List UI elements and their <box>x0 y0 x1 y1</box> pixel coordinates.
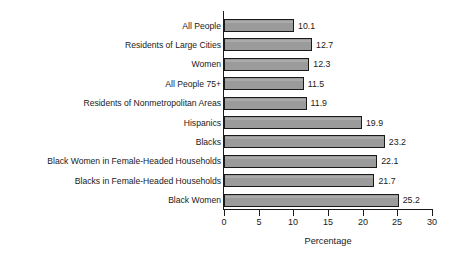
bar-highlight <box>225 196 398 198</box>
x-axis-tick <box>397 210 398 216</box>
bar-value-label: 11.9 <box>311 96 327 110</box>
bar-value-label: 12.7 <box>316 38 333 52</box>
bar-highlight <box>225 157 376 159</box>
bar-value-label: 22.1 <box>381 154 398 168</box>
x-axis-tick-label: 10 <box>288 217 298 228</box>
x-axis-tick <box>224 210 225 216</box>
x-axis-tick <box>293 210 294 216</box>
bar <box>224 155 377 168</box>
bar <box>224 194 399 207</box>
bar-highlight <box>225 79 303 81</box>
category-label: Blacks in Female-Headed Households <box>75 174 221 188</box>
category-label: Residents of Large Cities <box>125 38 221 52</box>
category-label: Residents of Nonmetropolitan Areas <box>83 96 221 110</box>
bar <box>224 38 312 51</box>
x-axis-tick-label: 5 <box>256 217 261 228</box>
x-axis-tick-label: 0 <box>221 217 226 228</box>
category-label: Black Women in Female-Headed Households <box>47 154 221 168</box>
bar <box>224 97 307 110</box>
bar <box>224 77 304 90</box>
bar-highlight <box>225 176 373 178</box>
category-label: All People <box>182 19 221 33</box>
bar-highlight <box>225 40 311 42</box>
category-label: Blacks <box>196 135 221 149</box>
bar-value-label: 21.7 <box>378 174 395 188</box>
bar-highlight <box>225 99 306 101</box>
bar-chart: All People10.1Residents of Large Cities1… <box>0 0 449 260</box>
category-label: All People 75+ <box>165 77 221 91</box>
x-axis-tick <box>363 210 364 216</box>
bar <box>224 174 374 187</box>
x-axis-title: Percentage <box>305 236 352 246</box>
bar <box>224 116 362 129</box>
bar-value-label: 11.5 <box>308 77 324 91</box>
category-label: Black Women <box>168 193 221 207</box>
x-axis-tick <box>328 210 329 216</box>
bar-highlight <box>225 118 361 120</box>
x-axis-tick <box>259 210 260 216</box>
bar-value-label: 10.1 <box>298 19 315 33</box>
bar-value-label: 23.2 <box>389 135 406 149</box>
x-axis-tick-label: 20 <box>358 217 368 228</box>
x-axis-tick-label: 15 <box>323 217 333 228</box>
bar <box>224 135 385 148</box>
bar <box>224 19 294 32</box>
bar-highlight <box>225 60 308 62</box>
bar-highlight <box>225 137 384 139</box>
bar-value-label: 25.2 <box>403 193 420 207</box>
category-label: Women <box>192 57 221 71</box>
x-axis-tick-label: 30 <box>427 217 437 228</box>
x-axis-tick <box>432 210 433 216</box>
bar-value-label: 19.9 <box>366 116 383 130</box>
bar-value-label: 12.3 <box>313 57 330 71</box>
bar <box>224 58 309 71</box>
category-label: Hispanics <box>184 116 221 130</box>
x-axis-tick-label: 25 <box>392 217 402 228</box>
bar-highlight <box>225 21 293 23</box>
